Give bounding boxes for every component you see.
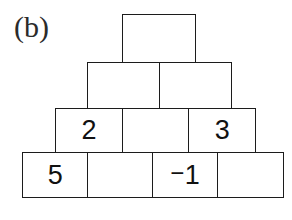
pyramid-cell-digit-r4c3: 1	[185, 160, 201, 190]
pyramid-row-1	[122, 14, 196, 64]
pyramid-cell-r4c2[interactable]	[87, 152, 154, 198]
pyramid-cell-r3c1[interactable]: 2	[55, 108, 123, 154]
pyramid-cell-r1c1[interactable]	[122, 14, 196, 64]
pyramid-cell-value-r3c1: 2	[82, 117, 97, 144]
pyramid-row-4: 5 −1	[22, 152, 284, 198]
pyramid-cell-value-r3c3: 3	[215, 117, 230, 144]
pyramid-cell-r4c4[interactable]	[217, 152, 284, 198]
pyramid-cell-value-r4c3: −1	[170, 162, 200, 189]
figure-root: (b) 2 3	[0, 0, 292, 220]
minus-sign-icon: −	[170, 161, 185, 185]
pyramid-row-3: 2 3	[55, 108, 256, 154]
pyramid-cell-r2c1[interactable]	[87, 62, 160, 110]
pyramid-row-2	[87, 62, 232, 110]
pyramid-cell-r3c3[interactable]: 3	[188, 108, 256, 154]
pyramid-cell-r3c2[interactable]	[122, 108, 190, 154]
pyramid-cell-r4c3[interactable]: −1	[152, 152, 219, 198]
number-pyramid: 2 3 5 −1	[0, 0, 292, 220]
pyramid-cell-r2c2[interactable]	[159, 62, 232, 110]
pyramid-cell-value-r4c1: 5	[48, 162, 63, 189]
pyramid-cell-r4c1[interactable]: 5	[22, 152, 89, 198]
